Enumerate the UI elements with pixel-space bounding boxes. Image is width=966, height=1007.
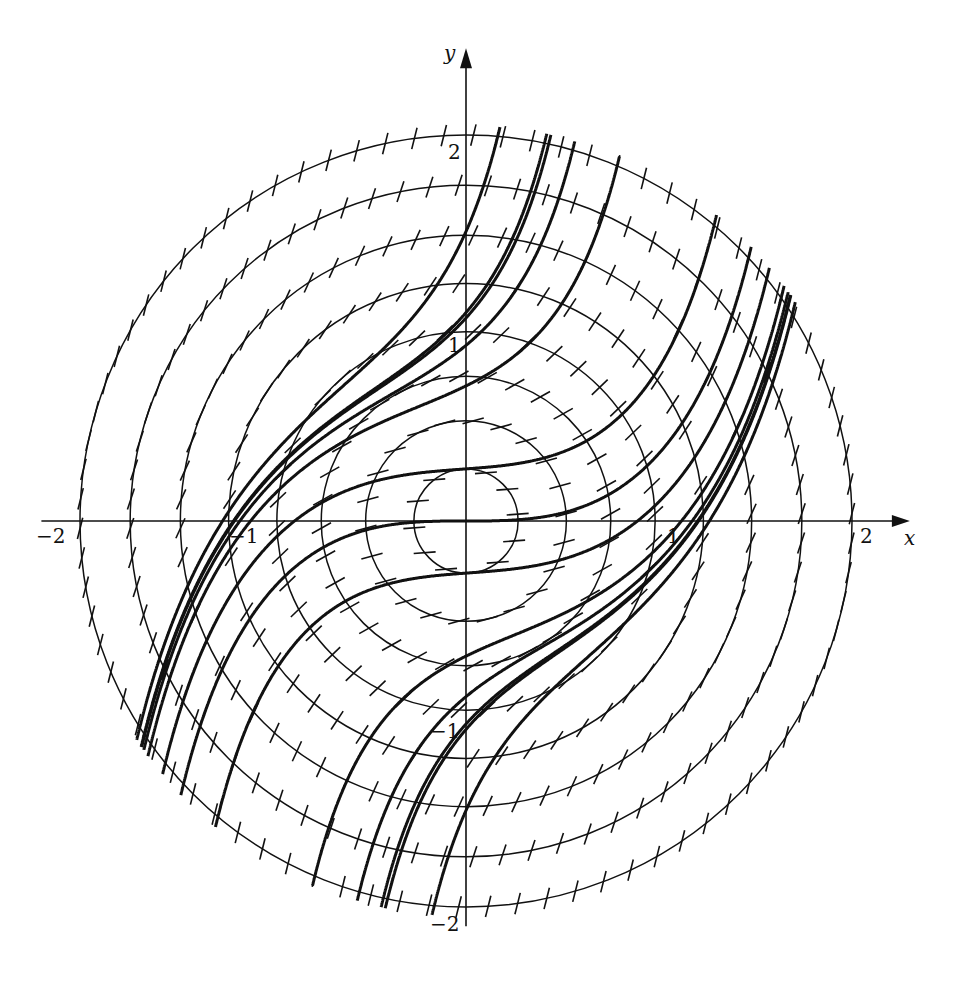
y-axis-arrow-icon: [460, 48, 472, 68]
slope-mark: [260, 838, 265, 859]
slope-mark: [128, 319, 133, 340]
slope-mark: [241, 258, 248, 279]
slope-mark: [570, 193, 577, 214]
slope-mark: [692, 562, 704, 580]
slope-mark: [369, 293, 381, 311]
slope-mark: [691, 199, 696, 220]
slope-mark: [619, 749, 628, 769]
slope-mark: [812, 675, 817, 696]
slope-mark: [540, 786, 549, 806]
slope-mark: [355, 246, 364, 266]
x-tick-label: −1: [229, 524, 258, 548]
slope-mark: [370, 681, 386, 696]
slope-mark: [272, 175, 277, 196]
slope-mark: [326, 577, 345, 588]
slope-mark: [272, 549, 288, 564]
slope-mark: [503, 540, 525, 542]
slope-mark: [319, 321, 331, 339]
slope-mark: [624, 216, 631, 237]
slope-mark: [434, 420, 455, 426]
slope-mark: [756, 259, 761, 280]
slope-mark: [673, 616, 685, 634]
slope-mark: [641, 168, 646, 189]
slope-mark: [789, 590, 796, 611]
slope-mark: [742, 697, 749, 718]
slope-mark: [546, 346, 562, 361]
slope-mark: [356, 725, 368, 743]
slope-mark: [507, 513, 529, 515]
slope-mark: [264, 240, 271, 261]
slope-mark: [747, 773, 752, 794]
slope-mark: [726, 794, 731, 815]
slope-mark: [196, 405, 205, 425]
slope-mark: [554, 241, 563, 261]
slope-mark: [654, 846, 659, 867]
slope-mark: [477, 616, 498, 622]
slope-mark: [661, 781, 668, 802]
slope-mark: [161, 270, 166, 291]
slope-mark: [210, 732, 217, 753]
x-tick-label: 1: [667, 524, 680, 548]
slope-mark: [715, 289, 722, 310]
slope-mark: [736, 237, 741, 258]
slope-mark: [589, 312, 601, 330]
slope-mark: [570, 361, 586, 376]
slope-mark: [551, 731, 563, 749]
slope-mark: [86, 430, 91, 451]
slope-mark: [679, 830, 684, 851]
slope-mark: [705, 743, 712, 764]
slope-mark: [291, 602, 307, 617]
slope-mark: [642, 732, 651, 752]
slope-mark: [806, 332, 811, 353]
slope-mark: [597, 480, 616, 491]
slope-mark: [633, 349, 645, 367]
slope-mark: [700, 668, 709, 688]
slope-mark: [792, 445, 799, 466]
x-tick-label: −2: [36, 524, 65, 548]
slope-mark: [349, 418, 368, 429]
slope-mark: [612, 329, 624, 347]
slope-mark: [475, 472, 497, 474]
slope-mark: [304, 272, 313, 292]
slope-mark: [649, 231, 656, 252]
slope-mark: [663, 713, 672, 733]
slope-mark: [343, 305, 355, 323]
slope-mark: [292, 741, 301, 761]
y-tick-label: 2: [448, 140, 461, 164]
slope-mark: [201, 227, 206, 248]
direction-field-diagram: x y −2−11221−1−2: [0, 0, 966, 1007]
slope-mark: [180, 461, 189, 481]
slope-mark: [133, 576, 140, 597]
slope-mark: [299, 161, 304, 182]
slope-mark: [727, 617, 736, 637]
slope-mark: [526, 589, 547, 595]
slope-mark: [346, 666, 362, 681]
slope-mark: [783, 726, 788, 747]
slope-mark: [261, 383, 273, 401]
slope-mark: [168, 349, 175, 370]
slope-mark: [630, 281, 639, 301]
slope-mark: [395, 598, 416, 604]
slope-mark: [382, 736, 394, 754]
slope-mark: [819, 359, 824, 380]
slope-mark: [259, 309, 268, 329]
slope-mark: [543, 566, 564, 572]
slope-mark: [507, 696, 523, 711]
slope-mark: [594, 764, 603, 784]
slope-mark: [331, 711, 343, 729]
slope-mark: [143, 294, 148, 315]
slope-mark: [683, 692, 692, 712]
y-tick-label: −1: [430, 719, 459, 743]
slope-mark: [223, 354, 232, 374]
slope-mark: [383, 236, 392, 256]
slope-mark: [359, 623, 378, 634]
slope-mark: [841, 591, 846, 612]
slope-mark: [225, 548, 237, 566]
slope-mark: [516, 438, 537, 444]
slope-mark: [297, 339, 309, 357]
slope-mark: [625, 425, 641, 440]
slope-mark: [824, 648, 829, 669]
slope-mark: [733, 312, 740, 333]
slope-mark: [192, 709, 199, 730]
slope-mark: [587, 454, 606, 465]
